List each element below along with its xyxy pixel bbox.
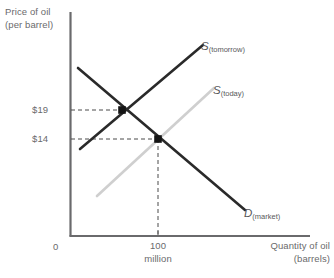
x-axis-tick-label-100-million: 100 million <box>144 240 172 265</box>
supply-tomorrow-curve <box>80 45 203 149</box>
curve-label-supply-tomorrow: S(tomorrow) <box>201 36 245 54</box>
curve-label-supply-tomorrow-base: S <box>201 40 209 52</box>
curve-label-demand-market-subscript: (market) <box>252 212 280 221</box>
origin-label: 0 <box>53 241 58 253</box>
curve-label-demand-market: D(market) <box>244 203 280 221</box>
x-axis-title: Quantity of oil (barrels) <box>270 240 330 265</box>
equilibrium-point-today <box>154 135 162 143</box>
y-axis-tick-label-14: $14 <box>32 133 48 145</box>
equilibrium-point-tomorrow <box>118 106 126 114</box>
supply-demand-chart: Price of oil (per barrel) $19 $14 0 100 … <box>0 0 334 278</box>
curve-label-supply-tomorrow-subscript: (tomorrow) <box>209 45 245 54</box>
curve-label-supply-today-base: S <box>213 84 221 96</box>
y-axis-tick-label-19: $19 <box>32 104 48 116</box>
curve-label-supply-today-subscript: (today) <box>221 89 244 98</box>
chart-plot-area <box>0 0 334 278</box>
y-axis-title: Price of oil (per barrel) <box>5 6 53 31</box>
curve-label-supply-today: S(today) <box>213 80 244 98</box>
